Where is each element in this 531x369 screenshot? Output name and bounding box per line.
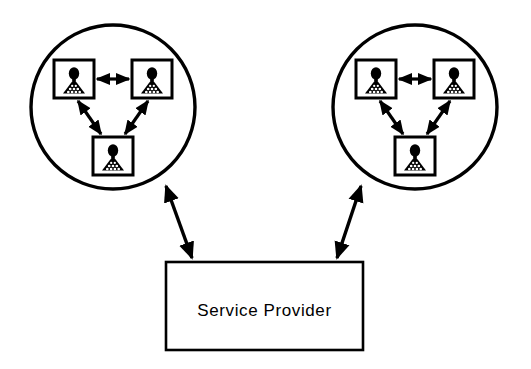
right-node-top-right[interactable] — [434, 60, 474, 98]
left-node-top-left[interactable] — [54, 60, 94, 98]
right-node-top-left[interactable] — [356, 60, 396, 98]
right-connector[interactable] — [337, 186, 361, 258]
right-link-topleft-bottom — [380, 101, 403, 134]
left-node-bottom[interactable] — [93, 137, 133, 175]
service-provider-label: Service Provider — [197, 301, 331, 320]
right-link-topright-bottom — [427, 101, 450, 134]
left-link-topright-bottom — [125, 101, 148, 134]
left-group[interactable] — [31, 25, 195, 189]
left-link-topleft-bottom — [78, 101, 101, 134]
diagram-canvas: Service Provider — [0, 0, 531, 369]
right-group[interactable] — [333, 25, 497, 189]
service-provider-node[interactable]: Service Provider — [166, 262, 363, 350]
diagram-svg: Service Provider — [0, 0, 531, 369]
right-node-bottom[interactable] — [395, 137, 435, 175]
left-connector[interactable] — [166, 186, 192, 258]
left-node-top-right[interactable] — [132, 60, 172, 98]
